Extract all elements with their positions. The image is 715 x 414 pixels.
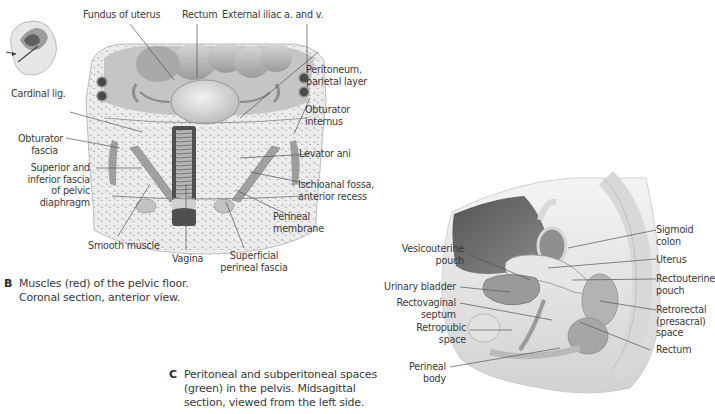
label-vagina: Vagina <box>172 253 203 265</box>
label-obturator-fascia: Obturator fascia <box>18 133 58 156</box>
figure-b-caption: B Muscles (red) of the pelvic floor. Cor… <box>19 277 189 305</box>
label-fundus-of-uterus: Fundus of uterus <box>83 9 160 21</box>
label-rectovaginal-septum: Rectovaginal septum <box>380 297 456 320</box>
label-smooth-muscle: Smooth muscle <box>88 240 160 252</box>
label-retrorectal-space: Retrorectal (presacral) space <box>656 304 707 339</box>
label-levator-ani: Levator ani <box>299 148 351 160</box>
label-uterus: Uterus <box>656 254 687 266</box>
label-rectum-c: Rectum <box>656 344 691 356</box>
label-ischioanal-fossa: Ischioanal fossa, anterior recess <box>298 179 374 202</box>
label-rectouterine-pouch: Rectouterine pouch <box>656 273 715 296</box>
label-superficial-perineal-fascia: Superficial perineal fascia <box>218 250 290 273</box>
label-peritoneum-parietal: Peritoneum, parietal layer <box>306 64 367 87</box>
figure-c-letter: C <box>169 368 177 382</box>
label-obturator-internus: Obturator internus <box>305 104 350 127</box>
label-rectum-b: Rectum <box>182 9 217 21</box>
label-superior-inferior-fascia: Superior and inferior fascia of pelvic d… <box>20 162 90 208</box>
label-retropubic-space: Retropubic space <box>390 322 466 345</box>
label-vesicouterine-pouch: Vesicouterine pouch <box>380 243 464 266</box>
label-external-iliac: External iliac a. and v. <box>222 9 323 21</box>
label-urinary-bladder: Urinary bladder <box>374 281 456 293</box>
figure-c-caption: C Peritoneal and subperitoneal spaces (g… <box>184 368 377 410</box>
label-sigmoid-colon: Sigmoid colon <box>656 224 693 247</box>
label-perineal-membrane: Perineal membrane <box>273 211 324 234</box>
figure-b-letter: B <box>4 277 12 291</box>
orientation-thumbnail <box>6 21 57 75</box>
midsagittal-section-illustration <box>442 178 660 393</box>
label-cardinal-ligament: Cardinal lig. <box>11 88 66 100</box>
label-perineal-body: Perineal body <box>400 361 446 384</box>
